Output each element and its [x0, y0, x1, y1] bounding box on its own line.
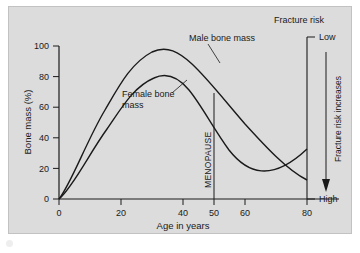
x-tick-label-60: 60: [240, 208, 250, 218]
x-tick-label-80: 80: [302, 208, 312, 218]
female-bone-mass-curve: [59, 76, 307, 199]
bone-mass-chart: 0 20 40 60 80 100 0 20 40 50 60 80: [9, 7, 353, 235]
fracture-risk-low-label: Low: [319, 32, 336, 42]
x-tick-label-0: 0: [56, 208, 61, 218]
fracture-risk-arrow-icon: [322, 52, 330, 192]
page-artifact-mark: [6, 240, 13, 247]
male-label-group: Male bone mass: [189, 33, 256, 63]
y-tick-label-0: 0: [44, 194, 49, 204]
y-tick-label-40: 40: [39, 133, 49, 143]
female-label-leader-line: [172, 80, 187, 93]
x-tick-label-50: 50: [209, 208, 219, 218]
fracture-risk-arrow-head: [322, 179, 330, 192]
series-group: [59, 49, 307, 199]
x-axis-title: Age in years: [157, 220, 210, 231]
female-curve-label-line1: Female bone: [122, 89, 175, 99]
y-tick-label-100: 100: [34, 41, 49, 51]
male-curve-label: Male bone mass: [189, 33, 256, 43]
y-tick-label-20: 20: [39, 164, 49, 174]
x-ticks-group: 0 20 40 50 60 80: [56, 199, 312, 218]
y-tick-label-60: 60: [39, 102, 49, 112]
axes-group: [59, 46, 339, 199]
x-tick-label-40: 40: [178, 208, 188, 218]
fracture-risk-high-label: High: [319, 194, 338, 204]
y-ticks-group: 0 20 40 60 80 100: [34, 41, 59, 204]
fracture-risk-axis-group: Fracture risk Low High Fracture risk inc…: [274, 15, 343, 204]
menopause-marker-group: MENOPAUSE: [203, 93, 214, 199]
fracture-risk-direction-label: Fracture risk increases: [333, 76, 343, 162]
male-label-leader-line: [208, 44, 220, 63]
female-label-group: Female bone mass: [122, 80, 187, 110]
y-tick-label-80: 80: [39, 72, 49, 82]
menopause-label: MENOPAUSE: [203, 132, 213, 188]
female-curve-label-line2: mass: [122, 100, 144, 110]
chart-screenshot: 0 20 40 60 80 100 0 20 40 50 60 80: [0, 0, 360, 253]
x-tick-label-20: 20: [116, 208, 126, 218]
figure-panel: 0 20 40 60 80 100 0 20 40 50 60 80: [8, 6, 352, 234]
fracture-risk-title: Fracture risk: [274, 15, 325, 25]
y-axis-title: Bone mass (%): [22, 90, 33, 155]
male-bone-mass-curve: [59, 49, 307, 199]
